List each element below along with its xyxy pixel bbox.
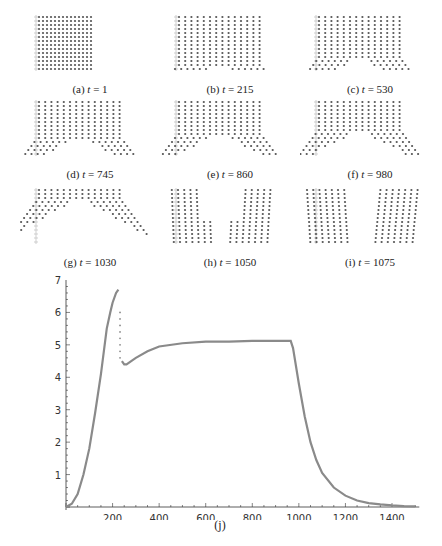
particle-lattice bbox=[300, 95, 440, 167]
chart-caption: (j) bbox=[200, 518, 240, 533]
particle-lattice bbox=[20, 183, 160, 255]
panel-e: (e) t = 860 bbox=[160, 95, 300, 185]
particle-lattice bbox=[160, 95, 300, 167]
particle-lattice bbox=[300, 183, 440, 255]
panel-i: (i) t = 1075 bbox=[300, 183, 440, 273]
svg-text:1000: 1000 bbox=[286, 513, 311, 520]
svg-text:200: 200 bbox=[103, 513, 122, 520]
panel-g: (g) t = 1030 bbox=[20, 183, 160, 273]
particle-lattice bbox=[160, 10, 300, 82]
particle-lattice bbox=[20, 95, 160, 167]
panel-caption: (f) t = 980 bbox=[300, 168, 440, 180]
panel-caption: (a) t = 1 bbox=[20, 83, 160, 95]
panel-caption: (c) t = 530 bbox=[300, 83, 440, 95]
panel-b: (b) t = 215 bbox=[160, 10, 300, 100]
panel-a: (a) t = 1 bbox=[20, 10, 160, 100]
panel-caption: (b) t = 215 bbox=[160, 83, 300, 95]
time-series-chart: 2004006008001000120014001234567 bbox=[0, 270, 442, 520]
panel-f: (f) t = 980 bbox=[300, 95, 440, 185]
panel-caption: (h) t = 1050 bbox=[160, 256, 300, 268]
svg-text:3: 3 bbox=[55, 405, 61, 416]
svg-text:1: 1 bbox=[55, 470, 61, 481]
panel-d: (d) t = 745 bbox=[20, 95, 160, 185]
panel-caption: (i) t = 1075 bbox=[300, 256, 440, 268]
panel-caption: (g) t = 1030 bbox=[20, 256, 160, 268]
svg-text:5: 5 bbox=[55, 340, 61, 351]
particle-lattice bbox=[300, 10, 440, 82]
svg-text:6: 6 bbox=[55, 307, 61, 318]
svg-text:2: 2 bbox=[55, 437, 61, 448]
panel-caption: (d) t = 745 bbox=[20, 168, 160, 180]
svg-text:400: 400 bbox=[150, 513, 169, 520]
svg-text:7: 7 bbox=[55, 275, 61, 286]
svg-text:800: 800 bbox=[243, 513, 262, 520]
panel-caption: (e) t = 860 bbox=[160, 168, 300, 180]
panel-c: (c) t = 530 bbox=[300, 10, 440, 100]
svg-text:4: 4 bbox=[55, 372, 61, 383]
particle-lattice bbox=[160, 183, 300, 255]
particle-lattice bbox=[20, 10, 160, 82]
panel-h: (h) t = 1050 bbox=[160, 183, 300, 273]
svg-text:1400: 1400 bbox=[379, 513, 404, 520]
svg-text:1200: 1200 bbox=[333, 513, 358, 520]
